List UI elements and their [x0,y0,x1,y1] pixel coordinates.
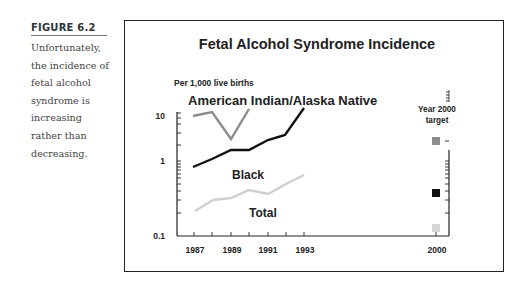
series-label-aian: American Indian/Alaska Native [188,93,377,108]
x-tick-1993: 1993 [296,245,315,255]
chart-title: Fetal Alcohol Syndrome Incidence [199,36,435,52]
target-marker-black [432,189,440,197]
y-tick-0-1: 0.1 [153,231,165,241]
target-marker-total [432,224,440,232]
y-axis-label: Per 1,000 live births [174,78,254,88]
y-tick-1: 1 [160,156,165,166]
x-tick-1987: 1987 [186,245,205,255]
target-label-line1: Year 2000 [418,105,456,114]
series-label-black: Black [232,168,264,182]
x-tick-1989: 1989 [223,245,242,255]
series-line-black [193,108,304,167]
x-tick-2000: 2000 [428,245,447,255]
y-tick-10: 10 [156,111,166,121]
target-label-line2: target [426,116,449,125]
target-marker-aian [432,137,440,145]
y-ticks [177,92,449,213]
x-tick-1991: 1991 [259,245,278,255]
axes [177,90,449,236]
series-line-aian [193,109,249,139]
chart-svg: Fetal Alcohol Syndrome Incidence Per 1,0… [0,0,517,285]
series-label-total: Total [249,206,277,220]
